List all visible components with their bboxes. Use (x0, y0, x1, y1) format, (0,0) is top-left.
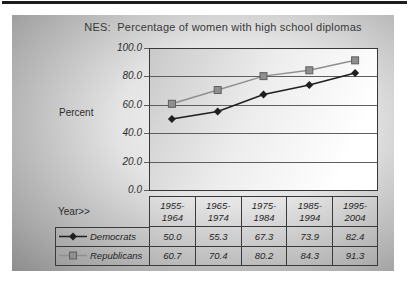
category-header: 1955- 1964 (149, 196, 195, 227)
category-header: 1985- 1994 (286, 196, 332, 227)
y-tick-label: 0.0 (84, 183, 142, 196)
y-tick-label: 80.0 (84, 69, 142, 82)
y-tick-label: 40.0 (84, 126, 142, 139)
table-cell: 82.4 (332, 227, 378, 247)
table-cell: 55.3 (195, 227, 241, 247)
category-header: 1975- 1984 (241, 196, 287, 227)
y-tick-label: 100.0 (84, 41, 142, 54)
table-cell: 67.3 (241, 227, 287, 247)
x-axis-label: Year>> (55, 196, 149, 227)
slide-top-rule (2, 1, 407, 4)
category-header: 1995- 2004 (332, 196, 378, 227)
table-cell: 84.3 (286, 247, 332, 267)
table-cell: 91.3 (332, 247, 378, 267)
category-header: 1965- 1974 (195, 196, 241, 227)
table-cell: 73.9 (286, 227, 332, 247)
legend-row-republicans: Republicans (55, 247, 149, 267)
line-chart-canvas (144, 48, 379, 191)
data-table: Year>> 1955- 1964 1965- 1974 1975- 1984 … (55, 196, 378, 266)
legend-label: Democrats (90, 231, 136, 242)
chart-title: NES: Percentage of women with high schoo… (52, 21, 394, 33)
chart-region: NES: Percentage of women with high schoo… (12, 15, 394, 271)
y-tick-label: 60.0 (84, 98, 142, 111)
table-cell: 70.4 (195, 247, 241, 267)
democrats-line-marker-icon (58, 230, 88, 243)
republicans-line-marker-icon (58, 249, 88, 262)
table-cell: 60.7 (149, 247, 195, 267)
legend-row-democrats: Democrats (55, 227, 149, 247)
table-cell: 80.2 (241, 247, 287, 267)
legend-label: Republicans (90, 250, 142, 261)
y-tick-label: 20.0 (84, 155, 142, 168)
table-cell: 50.0 (149, 227, 195, 247)
